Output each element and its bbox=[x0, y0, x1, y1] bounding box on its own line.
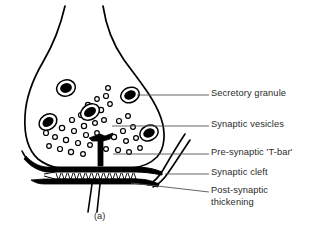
synaptic-vesicle bbox=[116, 148, 121, 153]
synaptic-vesicle bbox=[102, 118, 107, 123]
synaptic-vesicle bbox=[106, 86, 111, 91]
synaptic-vesicle bbox=[68, 149, 73, 154]
label-secretory-granule: Secretory granule bbox=[211, 88, 286, 100]
synaptic-vesicle bbox=[84, 133, 89, 138]
label-synaptic-cleft: Synaptic cleft bbox=[211, 167, 268, 179]
synaptic-vesicle bbox=[81, 152, 86, 157]
synaptic-vesicle bbox=[134, 136, 139, 141]
synaptic-vesicle bbox=[117, 119, 122, 124]
synapse-diagram-figure: Secretory granule Synaptic vesicles Pre-… bbox=[0, 0, 315, 233]
synaptic-vesicle bbox=[72, 129, 77, 134]
secretory-granule bbox=[137, 122, 161, 144]
figure-caption: (a) bbox=[94, 211, 105, 221]
synaptic-cleft bbox=[44, 172, 137, 179]
synaptic-vesicle bbox=[59, 125, 64, 130]
synaptic-vesicle bbox=[138, 146, 143, 151]
synaptic-vesicle bbox=[95, 97, 100, 102]
label-post-synaptic-thickening: Post-synaptic thickening bbox=[211, 185, 268, 208]
bouton-outline bbox=[25, 6, 164, 168]
label-synaptic-cleft-text: Synaptic cleft bbox=[211, 167, 268, 177]
synaptic-vesicle bbox=[58, 147, 63, 152]
synaptic-vesicle bbox=[124, 139, 129, 144]
synaptic-vesicle bbox=[104, 94, 109, 99]
synaptic-vesicle bbox=[126, 114, 131, 119]
secretory-granule bbox=[78, 101, 103, 124]
label-pre-synaptic-t-bar: Pre-synaptic 'T-bar' bbox=[211, 147, 293, 159]
synaptic-vesicle bbox=[76, 141, 81, 146]
synaptic-vesicle bbox=[70, 118, 75, 123]
synaptic-vesicle bbox=[108, 102, 113, 107]
label-synaptic-vesicles: Synaptic vesicles bbox=[211, 119, 284, 131]
synaptic-vesicle bbox=[88, 143, 93, 148]
synaptic-vesicle bbox=[44, 131, 49, 136]
synaptic-vesicle bbox=[81, 123, 86, 128]
synaptic-vesicle bbox=[63, 137, 68, 142]
post-synaptic-thickening bbox=[31, 179, 159, 187]
label-synaptic-vesicles-text: Synaptic vesicles bbox=[211, 119, 284, 129]
secretory-granule bbox=[36, 110, 60, 133]
label-post-synaptic-thickening-text-line2: thickening bbox=[211, 197, 254, 207]
label-post-synaptic-thickening-text: Post-synaptic bbox=[211, 185, 268, 195]
secretory-granule bbox=[54, 77, 77, 98]
synaptic-vesicle bbox=[104, 147, 109, 152]
synaptic-vesicle bbox=[53, 135, 58, 140]
label-pre-synaptic-t-bar-text: Pre-synaptic 'T-bar' bbox=[211, 147, 293, 157]
pre-synaptic-t-bar bbox=[89, 133, 113, 166]
synaptic-vesicle bbox=[121, 129, 126, 134]
synaptic-vesicle bbox=[131, 125, 136, 130]
synaptic-vesicle bbox=[47, 144, 52, 149]
label-secretory-granule-text: Secretory granule bbox=[211, 88, 286, 98]
synaptic-vesicle bbox=[93, 121, 98, 126]
leader-post-synaptic-thickening bbox=[131, 183, 209, 192]
